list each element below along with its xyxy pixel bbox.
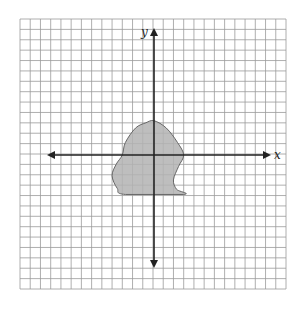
x-axis-label: x	[274, 148, 281, 162]
coordinate-plane: x y	[0, 0, 299, 311]
y-axis-label: y	[140, 25, 148, 39]
